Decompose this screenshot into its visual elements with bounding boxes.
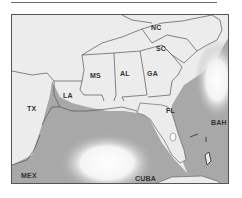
southeast-us-map: [12, 15, 229, 184]
label-cuba: CUBA: [135, 175, 156, 182]
top-rule: [11, 2, 217, 3]
label-nc: NC: [151, 24, 162, 31]
label-mex: MEX: [21, 172, 37, 179]
label-bah: BAH: [211, 119, 227, 126]
label-la: LA: [63, 92, 73, 99]
label-ga: GA: [147, 70, 158, 77]
label-al: AL: [120, 70, 130, 77]
label-tx: TX: [27, 105, 36, 112]
label-sc: SC: [156, 45, 166, 52]
label-ms: MS: [90, 72, 101, 79]
map-frame: NC SC GA AL MS LA TX FL BAH MEX CUBA: [11, 14, 229, 184]
label-fl: FL: [166, 107, 175, 114]
